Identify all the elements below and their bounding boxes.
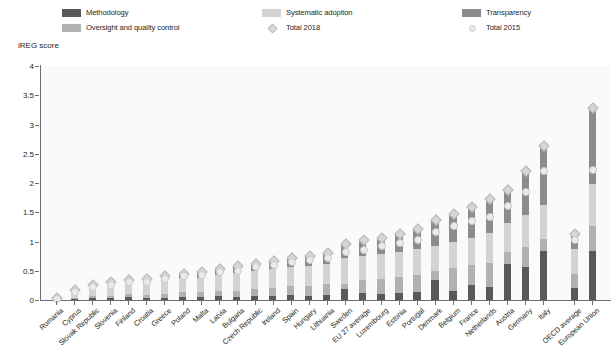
- x-tick-mark: [453, 301, 454, 305]
- x-tick-mark: [74, 301, 75, 305]
- bar-segment-systematic-adoption: [359, 256, 366, 279]
- bar-segment-systematic-adoption: [395, 252, 402, 277]
- x-tick-mark: [92, 301, 93, 305]
- legend-label-oversight_and_quality_control: Oversight and quality control: [86, 22, 179, 34]
- bar-segment-methodology: [89, 298, 96, 300]
- legend-item-methodology: Methodology: [62, 6, 262, 20]
- marker-total-2015: [396, 239, 404, 247]
- y-tick-label: 3.5: [6, 91, 34, 100]
- bar-segment-methodology: [143, 298, 150, 300]
- x-tick-mark: [255, 301, 256, 305]
- marker-total-2015: [252, 263, 260, 271]
- bar-segment-oversight-and-quality-control: [468, 265, 475, 284]
- y-tick-mark: [35, 212, 39, 213]
- bar-segment-systematic-adoption: [571, 249, 578, 275]
- x-tick-mark: [417, 301, 418, 305]
- bar-segment-oversight-and-quality-control: [413, 275, 420, 293]
- bar-segment-methodology: [341, 289, 348, 300]
- bar-segment-methodology: [287, 295, 294, 300]
- x-tick-mark: [435, 301, 436, 305]
- bar-segment-systematic-adoption: [197, 278, 204, 293]
- marker-total-2015: [53, 295, 61, 303]
- bar-segment-systematic-adoption: [486, 233, 493, 262]
- bar-segment-systematic-adoption: [468, 238, 475, 265]
- x-tick-mark: [574, 301, 575, 305]
- x-axis-label: Greece: [150, 306, 174, 329]
- chart-legend: MethodologySystematic adoptionTransparen…: [62, 6, 602, 36]
- marker-total-2015: [504, 202, 512, 210]
- bar-segment-oversight-and-quality-control: [287, 286, 294, 295]
- x-tick-mark: [219, 301, 220, 305]
- y-axis-line: [40, 65, 41, 301]
- legend-swatch-methodology: [62, 9, 81, 17]
- bar-segment-methodology: [504, 264, 511, 300]
- bar-segment-systematic-adoption: [233, 273, 240, 291]
- marker-total-2015: [198, 271, 206, 279]
- legend-marker-total-2015: [462, 24, 481, 32]
- y-tick-label: 2.5: [6, 149, 34, 158]
- bar-segment-methodology: [215, 296, 222, 300]
- bar-segment-oversight-and-quality-control: [395, 277, 402, 293]
- marker-total-2015: [360, 246, 368, 254]
- bar-segment-systematic-adoption: [449, 242, 456, 268]
- bar-segment-methodology: [179, 297, 186, 300]
- bar-segment-systematic-adoption: [179, 278, 186, 292]
- bar-segment-methodology: [305, 296, 312, 300]
- bar-segment-methodology: [431, 280, 438, 300]
- x-axis-label: Italy: [537, 306, 553, 321]
- x-tick-mark: [381, 301, 382, 305]
- y-tick-mark: [35, 95, 39, 96]
- legend-item-oversight_and_quality_control: Oversight and quality control: [62, 21, 262, 35]
- bar-segment-systematic-adoption: [323, 264, 330, 284]
- bar-segment-methodology: [323, 295, 330, 300]
- x-tick-mark: [237, 301, 238, 305]
- marker-total-2015: [270, 261, 278, 269]
- bar-segment-oversight-and-quality-control: [571, 274, 578, 288]
- x-tick-mark: [309, 301, 310, 305]
- legend-swatch-transparency: [462, 9, 481, 17]
- y-tick-mark: [35, 125, 39, 126]
- bar-segment-oversight-and-quality-control: [449, 268, 456, 290]
- bar-segment-systematic-adoption: [540, 205, 547, 239]
- y-tick-label: 4: [6, 62, 34, 71]
- y-tick-mark: [35, 66, 39, 67]
- bar-segment-methodology: [269, 296, 276, 300]
- marker-total-2015: [234, 267, 242, 275]
- bar-segment-methodology: [540, 251, 547, 300]
- bar-segment-systematic-adoption: [413, 249, 420, 275]
- marker-total-2015: [306, 256, 314, 264]
- x-axis-label: Ireland: [259, 306, 281, 327]
- y-tick-mark: [35, 300, 39, 301]
- bar-segment-methodology: [395, 293, 402, 300]
- bar-segment-methodology: [486, 287, 493, 300]
- x-tick-mark: [56, 301, 57, 305]
- x-tick-mark: [399, 301, 400, 305]
- bar-segment-methodology: [251, 296, 258, 300]
- bar-segment-oversight-and-quality-control: [377, 279, 384, 294]
- x-tick-mark: [507, 301, 508, 305]
- legend-swatch-oversight: [62, 24, 81, 32]
- bar-segment-methodology: [359, 293, 366, 300]
- x-tick-mark: [345, 301, 346, 305]
- bar-segment-methodology: [197, 297, 204, 300]
- marker-total-2015: [378, 242, 386, 250]
- bar-segment-oversight-and-quality-control: [589, 226, 596, 251]
- legend-swatch-systematic-adoption: [262, 9, 281, 17]
- bar-column[interactable]: [589, 107, 596, 300]
- bar-segment-systematic-adoption: [504, 223, 511, 252]
- bar-segment-methodology: [161, 298, 168, 300]
- x-axis-label: Malta: [190, 306, 209, 324]
- x-tick-mark: [146, 301, 147, 305]
- x-tick-mark: [592, 301, 593, 305]
- marker-total-2015: [486, 213, 494, 221]
- bar-segment-systematic-adoption: [269, 269, 276, 288]
- bar-segment-oversight-and-quality-control: [359, 280, 366, 293]
- bar-segment-methodology: [589, 251, 596, 300]
- y-tick-mark: [35, 271, 39, 272]
- y-axis-title: iREG score: [18, 41, 59, 50]
- x-tick-mark: [201, 301, 202, 305]
- y-tick-label: 1: [6, 237, 34, 246]
- bar-segment-oversight-and-quality-control: [540, 239, 547, 252]
- bar-segment-methodology: [449, 291, 456, 300]
- legend-label-systematic_adoption: Systematic adoption: [286, 7, 352, 19]
